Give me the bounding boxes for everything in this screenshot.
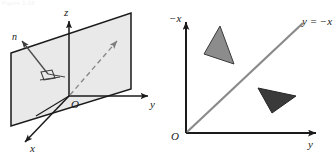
axis-z-label: z (63, 6, 69, 18)
origin-label-left: O (71, 98, 79, 110)
lower-right-triangle (258, 88, 296, 113)
axis-neg-x-label: −x (169, 12, 181, 24)
axis-y-label: y (149, 98, 155, 110)
left-panel-3d-plane-diagram: y z x n O (0, 0, 168, 156)
axis-x-label: x (29, 142, 35, 154)
upper-left-triangle (204, 26, 234, 64)
figure-root: Figure 1-18 y z x n (0, 0, 335, 156)
line-equation-label: y = −x (301, 15, 332, 27)
normal-vector-n-label: n (12, 31, 17, 42)
origin-label-right: O (171, 130, 179, 142)
right-panel-2d-line-diagram: −x y y = −x O (168, 0, 335, 156)
line-y-equals-minus-x (187, 23, 303, 132)
axis-y-label-right: y (307, 138, 313, 150)
